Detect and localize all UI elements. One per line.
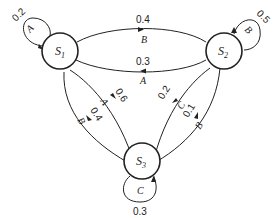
arrowhead-icon [194,112,198,119]
edge-prob: 0.6 [113,86,130,104]
state-subscript: 1 [61,51,65,60]
state-s2: S2 [206,33,242,69]
edge-s3-s3: C 0.3 [123,175,156,217]
edge-symbol: A [23,22,36,35]
edge-prob: 0.3 [136,56,150,67]
state-diagram: A 0.2 0.4 B 0.3 A B 0.5 0.6 A 0.4 B [0,0,280,218]
edge-s1-s2: 0.4 B [77,14,206,45]
state-s1: S1 [42,33,78,69]
edge-symbol: B [192,120,205,131]
edge-s3-s1: 0.4 B [64,72,127,162]
edge-prob: 0.3 [133,206,147,217]
state-subscript: 3 [141,161,146,170]
edge-s2-s1: 0.3 A [76,56,206,86]
arrowhead-icon [138,27,144,32]
edge-prob: 0.2 [155,83,172,101]
state-subscript: 2 [224,51,228,60]
arrowhead-icon [140,69,146,74]
edge-s3-s2: 0.1 B [156,68,220,162]
edge-symbol: A [139,75,147,86]
edge-symbol: B [243,24,255,36]
state-s3: S3 [124,143,160,179]
edge-symbol: C [137,185,144,196]
edge-prob: 0.4 [88,105,105,123]
edge-prob: 0.2 [10,5,28,23]
edge-symbol: B [141,34,147,45]
edge-prob: 0.4 [136,14,150,25]
